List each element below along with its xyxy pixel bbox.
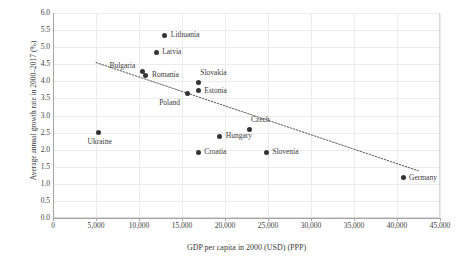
data-point[interactable] <box>264 150 269 155</box>
x-axis-tick-label: 45,000 <box>430 222 451 230</box>
x-axis-tick-label: 20,000 <box>215 222 236 230</box>
data-point-label: Slovakia <box>200 69 226 77</box>
gridline-horizontal <box>54 13 439 14</box>
data-point-label: Estonia <box>204 87 227 95</box>
gridline-vertical <box>397 14 398 217</box>
x-axis-tick-mark <box>440 218 441 221</box>
y-axis-tick-label: 3.0 <box>41 112 50 120</box>
y-axis-tick-label: 0.5 <box>41 197 50 205</box>
y-axis-tick-label: 4.0 <box>41 77 50 85</box>
plot-area <box>53 13 440 218</box>
x-axis-tick-mark <box>225 218 226 221</box>
x-axis-tick-mark <box>311 218 312 221</box>
data-point[interactable] <box>185 91 190 96</box>
data-point-label: Ukraine <box>88 138 112 146</box>
data-point-label: Lithuania <box>171 31 200 39</box>
gridline-horizontal <box>54 201 439 202</box>
x-axis-tick-mark <box>53 218 54 221</box>
x-axis-tick-label: 40,000 <box>387 222 408 230</box>
data-point-label: Croatia <box>204 148 226 156</box>
y-axis-tick-label: 2.0 <box>41 146 50 154</box>
gridline-vertical <box>139 14 140 217</box>
data-point-label: Bulgaria <box>109 62 135 70</box>
data-point[interactable] <box>196 88 201 93</box>
x-axis-tick-mark <box>182 218 183 221</box>
gridline-horizontal <box>54 167 439 168</box>
y-axis-tick-label: 3.5 <box>41 94 50 102</box>
y-axis-tick-label: 1.5 <box>41 163 50 171</box>
x-axis-tick-label: 25,000 <box>258 222 279 230</box>
data-point-label: Hungary <box>226 132 252 140</box>
y-axis-tick-label: 0.0 <box>41 214 50 222</box>
data-point-label: Romania <box>152 71 179 79</box>
gridline-horizontal <box>54 30 439 31</box>
x-axis-tick-mark <box>139 218 140 221</box>
x-axis-tick-mark <box>354 218 355 221</box>
x-axis-tick-label: 10,000 <box>129 222 150 230</box>
data-point[interactable] <box>401 175 406 180</box>
gridline-horizontal <box>54 81 439 82</box>
data-point-label: Germany <box>409 174 437 182</box>
x-axis-tick-label: 15,000 <box>172 222 193 230</box>
x-axis-tick-label: 35,000 <box>344 222 365 230</box>
gridline-horizontal <box>54 98 439 99</box>
data-point[interactable] <box>196 80 201 85</box>
x-axis-tick-label: 30,000 <box>301 222 322 230</box>
y-axis-title: Average annual growth rate in 2000–2017 … <box>29 16 38 206</box>
y-axis-tick-label: 6.0 <box>41 9 50 17</box>
y-axis-tick-label: 4.5 <box>41 60 50 68</box>
data-point-label: Slovenia <box>272 148 298 156</box>
gridline-vertical <box>96 14 97 217</box>
y-axis-line <box>53 13 54 218</box>
x-axis-line <box>53 218 440 219</box>
data-point[interactable] <box>154 50 159 55</box>
gridline-vertical <box>311 14 312 217</box>
data-point[interactable] <box>196 150 201 155</box>
y-axis-title-holder: Average annual growth rate in 2000–2017 … <box>0 0 30 230</box>
x-axis-tick-mark <box>96 218 97 221</box>
gridline-horizontal <box>54 47 439 48</box>
gridline-horizontal <box>54 150 439 151</box>
y-axis-tick-label: 5.0 <box>41 43 50 51</box>
gridline-vertical <box>182 14 183 217</box>
data-point[interactable] <box>217 134 222 139</box>
x-axis-tick-label: 5,000 <box>88 222 105 230</box>
y-axis-tick-label: 1.0 <box>41 180 50 188</box>
gridline-vertical <box>225 14 226 217</box>
gridline-horizontal <box>54 116 439 117</box>
x-axis-tick-mark <box>397 218 398 221</box>
y-axis-tick-label: 2.5 <box>41 129 50 137</box>
data-point-label: Poland <box>159 99 180 107</box>
gridline-vertical <box>354 14 355 217</box>
gridline-vertical <box>440 14 441 217</box>
scatter-chart: 0.00.51.01.52.02.53.03.54.04.55.05.56.0 … <box>0 0 463 267</box>
x-axis-tick-label: 0 <box>51 222 55 230</box>
x-axis-title: GDP per capita in 2000 (USD) (PPP) <box>53 243 440 253</box>
gridline-horizontal <box>54 184 439 185</box>
data-point-label: Czech <box>251 116 270 124</box>
x-axis-tick-mark <box>268 218 269 221</box>
data-point-label: Latvia <box>162 48 181 56</box>
y-axis-tick-label: 5.5 <box>41 26 50 34</box>
